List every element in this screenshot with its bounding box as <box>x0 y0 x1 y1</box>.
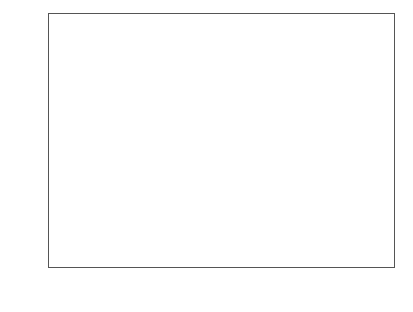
y-axis-label-wrapper <box>2 0 18 280</box>
plot-area <box>48 13 395 268</box>
scatter-points-layer <box>49 14 394 267</box>
scatter-plot-figure <box>0 0 413 312</box>
